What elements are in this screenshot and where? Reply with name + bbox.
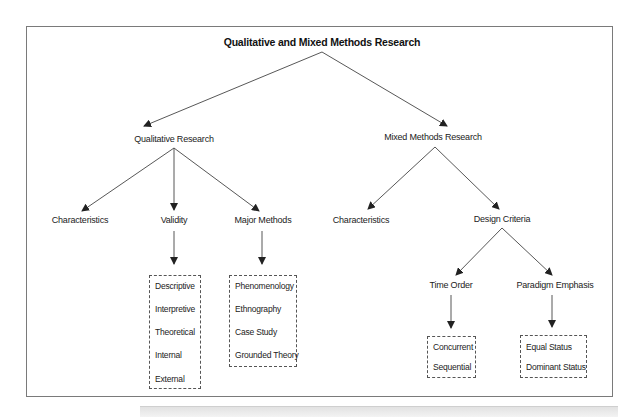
list-item-case-study: Case Study (235, 327, 277, 337)
list-item-concurrent: Concurrent (433, 342, 473, 352)
node-design-criteria: Design Criteria (474, 214, 531, 224)
node-mixed-methods-research: Mixed Methods Research (384, 132, 482, 142)
major-methods-box: Phenomenology Ethnography Case Study Gro… (229, 275, 297, 367)
node-time-order: Time Order (429, 280, 472, 290)
edge-qual-characteristics (82, 148, 174, 211)
edge-design-paradigm (502, 228, 552, 275)
list-item-ethnography: Ethnography (235, 304, 281, 314)
list-item-external: External (155, 374, 185, 384)
validity-types-box: Descriptive Interpretive Theoretical Int… (149, 275, 201, 389)
list-item-sequential: Sequential (433, 362, 471, 372)
list-item-equal-status: Equal Status (526, 342, 572, 352)
edge-mixed-characteristics (368, 147, 435, 209)
edge-root-mixed (322, 52, 447, 126)
edge-design-time (456, 228, 502, 275)
node-qual-characteristics: Characteristics (52, 215, 109, 225)
edge-root-qualitative (144, 52, 322, 126)
paradigm-emphasis-box: Equal Status Dominant Status (520, 335, 587, 378)
list-item-theoretical: Theoretical (155, 327, 195, 337)
list-item-dominant-status: Dominant Status (526, 362, 586, 372)
node-mixed-characteristics: Characteristics (333, 215, 390, 225)
time-order-box: Concurrent Sequential (427, 336, 476, 378)
node-qualitative-research: Qualitative Research (134, 134, 214, 144)
root-title: Qualitative and Mixed Methods Research (224, 36, 421, 48)
list-item-descriptive: Descriptive (155, 281, 195, 291)
node-paradigm-emphasis: Paradigm Emphasis (516, 280, 593, 290)
list-item-interpretive: Interpretive (155, 304, 195, 314)
list-item-internal: Internal (155, 350, 182, 360)
node-validity: Validity (161, 215, 188, 225)
node-major-methods: Major Methods (235, 215, 292, 225)
list-item-phenomenology: Phenomenology (235, 281, 294, 291)
edge-mixed-design (435, 147, 499, 209)
list-item-grounded-theory: Grounded Theory (235, 350, 298, 360)
edge-qual-methods (174, 148, 259, 211)
